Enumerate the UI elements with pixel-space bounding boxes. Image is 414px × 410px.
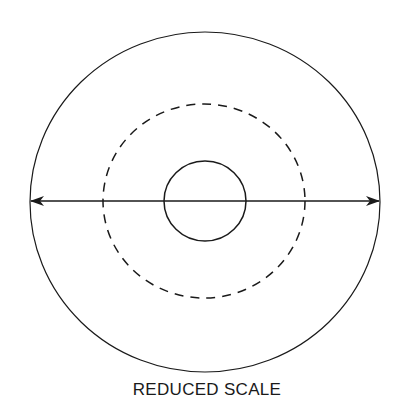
outer-circle: [30, 32, 380, 372]
diagram-caption: REDUCED SCALE: [0, 380, 414, 400]
concentric-circles-diagram: [0, 0, 414, 410]
